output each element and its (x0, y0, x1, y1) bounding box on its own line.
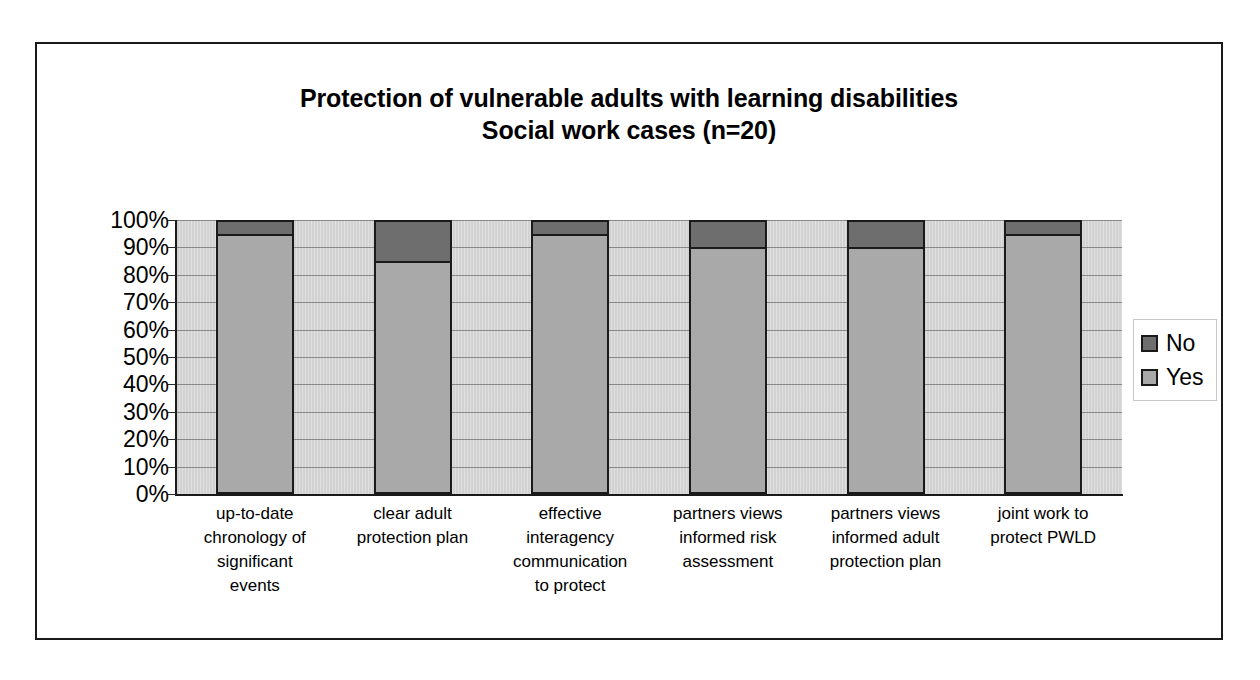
y-axis-line (175, 220, 177, 496)
y-axis-tick-mark (168, 357, 176, 358)
chart-title-line-1: Protection of vulnerable adults with lea… (37, 82, 1221, 114)
chart-title-line-2: Social work cases (n=20) (37, 114, 1221, 146)
y-axis-tick-mark (168, 220, 176, 221)
x-axis-label-line: protection plan (807, 550, 965, 574)
y-axis-tick-mark (168, 384, 176, 385)
chart-frame: Protection of vulnerable adults with lea… (35, 42, 1223, 640)
x-axis-line (175, 494, 1123, 496)
y-axis-tick-label: 20% (51, 428, 169, 451)
x-axis-category-label: partners viewsinformed adultprotection p… (807, 502, 965, 574)
x-axis-label-line: joint work to (964, 502, 1122, 526)
gridline (176, 220, 1122, 221)
y-axis-tick-label: 10% (51, 456, 169, 479)
y-axis-tick-label: 70% (51, 291, 169, 314)
stacked-bar[interactable] (689, 220, 767, 494)
y-axis-tick-label: 40% (51, 373, 169, 396)
legend-item-no[interactable]: No (1141, 332, 1210, 355)
x-axis-label-line: assessment (649, 550, 807, 574)
x-axis-category-label: joint work toprotect PWLD (964, 502, 1122, 550)
bar-group[interactable] (847, 220, 925, 494)
y-axis-tick-label: 60% (51, 319, 169, 342)
y-axis-tick-mark (168, 275, 176, 276)
bar-segment-no[interactable] (533, 222, 607, 236)
x-axis-category-label: up-to-datechronology ofsignificantevents (176, 502, 334, 599)
y-axis-tick-mark (168, 302, 176, 303)
y-axis-tick-mark (168, 467, 176, 468)
y-axis-tick-mark (168, 247, 176, 248)
bar-segment-no[interactable] (218, 222, 292, 236)
gridline (176, 384, 1122, 385)
bar-segment-no[interactable] (376, 222, 450, 263)
x-axis-label-line: partners views (807, 502, 965, 526)
bar-group[interactable] (531, 220, 609, 494)
legend-swatch-yes (1141, 369, 1158, 386)
gridline (176, 412, 1122, 413)
x-axis-label-line: informed risk (649, 526, 807, 550)
chart-title: Protection of vulnerable adults with lea… (37, 82, 1221, 146)
bar-group[interactable] (689, 220, 767, 494)
y-axis-tick-label: 50% (51, 346, 169, 369)
y-axis-tick-label: 0% (51, 483, 169, 506)
gridline (176, 247, 1122, 248)
stacked-bar[interactable] (847, 220, 925, 494)
gridline (176, 302, 1122, 303)
x-axis-label-line: up-to-date (176, 502, 334, 526)
y-axis-tick-mark (168, 330, 176, 331)
x-axis-category-label: effectiveinteragencycommunicationto prot… (491, 502, 649, 599)
bar-group[interactable] (374, 220, 452, 494)
bar-segment-yes[interactable] (533, 236, 607, 492)
x-axis-category-label: clear adultprotection plan (334, 502, 492, 550)
bar-segment-no[interactable] (691, 222, 765, 249)
y-axis-tick-label: 80% (51, 264, 169, 287)
gridline (176, 330, 1122, 331)
x-axis-label-line: to protect (491, 574, 649, 598)
bar-segment-no[interactable] (849, 222, 923, 249)
gridline (176, 439, 1122, 440)
bar-segment-yes[interactable] (691, 249, 765, 492)
y-axis-tick-mark (168, 439, 176, 440)
x-axis-label-line: interagency (491, 526, 649, 550)
bar-segment-no[interactable] (1006, 222, 1080, 236)
gridline (176, 275, 1122, 276)
x-axis-label-line: events (176, 574, 334, 598)
legend-label: No (1166, 332, 1195, 355)
stacked-bar[interactable] (374, 220, 452, 494)
gridline (176, 357, 1122, 358)
x-axis-label-line: informed adult (807, 526, 965, 550)
legend-item-yes[interactable]: Yes (1141, 366, 1210, 389)
y-axis-tick-label: 90% (51, 236, 169, 259)
x-axis-label-line: protection plan (334, 526, 492, 550)
stacked-bar[interactable] (531, 220, 609, 494)
x-axis-label-line: effective (491, 502, 649, 526)
y-axis-tick-mark (168, 412, 176, 413)
legend-swatch-no (1141, 335, 1158, 352)
bar-group[interactable] (1004, 220, 1082, 494)
x-axis-label-line: chronology of (176, 526, 334, 550)
x-axis-label-line: clear adult (334, 502, 492, 526)
bar-segment-yes[interactable] (1006, 236, 1080, 492)
bar-segment-yes[interactable] (849, 249, 923, 492)
bar-segment-yes[interactable] (376, 263, 450, 492)
bar-segment-yes[interactable] (218, 236, 292, 492)
stacked-bar[interactable] (216, 220, 294, 494)
y-axis-tick-label: 30% (51, 401, 169, 424)
bar-group[interactable] (216, 220, 294, 494)
legend: NoYes (1133, 319, 1217, 401)
y-axis-tick-mark (168, 494, 176, 495)
x-axis-label-line: protect PWLD (964, 526, 1122, 550)
y-axis-tick-label: 100% (51, 209, 169, 232)
plot-area (176, 220, 1122, 494)
x-axis-label-line: partners views (649, 502, 807, 526)
x-axis-category-label: partners viewsinformed riskassessment (649, 502, 807, 574)
gridline (176, 467, 1122, 468)
legend-label: Yes (1166, 366, 1204, 389)
x-axis-label-line: significant (176, 550, 334, 574)
stacked-bar[interactable] (1004, 220, 1082, 494)
x-axis-label-line: communication (491, 550, 649, 574)
